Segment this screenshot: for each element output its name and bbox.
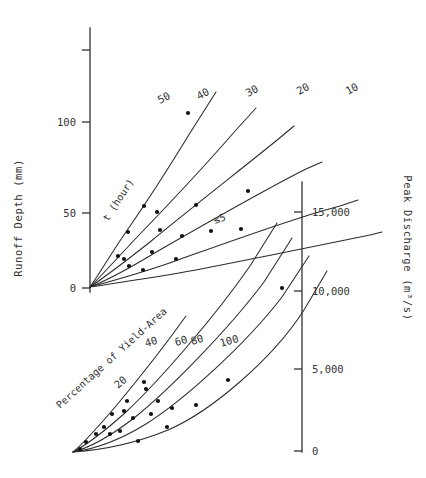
curve-label-lower-60: 60 bbox=[173, 333, 188, 348]
left-axis-title: Runoff Depth (mm) bbox=[12, 159, 24, 277]
lower-family-annotation: Percentage of Yield-Area bbox=[54, 306, 169, 411]
left-axis-tick-label-50: 50 bbox=[63, 207, 76, 219]
curve-label-lower-100: 100 bbox=[218, 332, 240, 349]
data-point bbox=[239, 227, 243, 231]
data-point bbox=[122, 257, 126, 261]
data-point bbox=[194, 403, 198, 407]
upper-family-annotation: t (hour) bbox=[100, 177, 135, 223]
lower-curve-family: 20 40 60 80 100 Percentage of Yield-Area bbox=[54, 223, 327, 452]
runoff-peak-discharge-figure: 100 50 0 Runoff Depth (mm) 15,000 10,000… bbox=[0, 0, 426, 478]
curve-label-lower-80: 80 bbox=[189, 332, 204, 347]
data-point bbox=[149, 412, 153, 416]
data-point bbox=[142, 204, 146, 208]
data-point bbox=[155, 210, 159, 214]
curve-label-upper-30: 30 bbox=[243, 82, 260, 99]
curve-label-upper-40: 40 bbox=[194, 85, 211, 102]
curve-label-lower-40: 40 bbox=[143, 334, 158, 349]
data-point bbox=[102, 425, 106, 429]
right-axis: 15,000 10,000 5,000 0 Peak Discharge (m³… bbox=[294, 175, 414, 457]
right-axis-tick-label-0: 0 bbox=[312, 445, 318, 457]
data-point bbox=[246, 189, 250, 193]
data-point bbox=[127, 264, 131, 268]
data-point bbox=[126, 230, 130, 234]
data-point bbox=[108, 432, 112, 436]
data-point bbox=[118, 429, 122, 433]
data-point bbox=[194, 203, 198, 207]
right-axis-tick-label-5000: 5,000 bbox=[312, 363, 344, 375]
curve-label-upper-20: 20 bbox=[294, 80, 311, 97]
data-point bbox=[165, 425, 169, 429]
curve-label-upper-50: 50 bbox=[155, 89, 172, 106]
left-axis-tick-label-0: 0 bbox=[70, 282, 76, 294]
data-point bbox=[226, 378, 230, 382]
curve-upper-50 bbox=[90, 92, 216, 287]
curve-label-lower-20: 20 bbox=[112, 373, 129, 390]
data-point bbox=[186, 111, 190, 115]
right-axis-title: Peak Discharge (m³/s) bbox=[402, 175, 414, 320]
data-point bbox=[131, 416, 135, 420]
data-point bbox=[158, 228, 162, 232]
curve-upper-30 bbox=[90, 126, 294, 287]
curve-label-upper-10: 10 bbox=[343, 80, 360, 97]
data-point bbox=[280, 286, 284, 290]
data-point bbox=[94, 432, 98, 436]
data-point bbox=[180, 234, 184, 238]
data-point bbox=[125, 399, 129, 403]
data-point bbox=[110, 412, 114, 416]
left-axis-tick-label-100: 100 bbox=[57, 116, 76, 128]
data-point bbox=[78, 447, 82, 451]
data-point bbox=[144, 387, 148, 391]
upper-curve-family: 50 40 30 20 10 t (hour) ≤5 bbox=[90, 80, 382, 287]
left-axis: 100 50 0 Runoff Depth (mm) bbox=[12, 28, 90, 294]
data-point bbox=[122, 409, 126, 413]
data-point bbox=[174, 257, 178, 261]
data-point bbox=[116, 254, 120, 258]
data-point bbox=[142, 380, 146, 384]
data-point bbox=[170, 406, 174, 410]
data-point bbox=[150, 250, 154, 254]
data-point bbox=[141, 268, 145, 272]
data-point bbox=[209, 229, 213, 233]
data-point bbox=[84, 440, 88, 444]
data-point bbox=[136, 439, 140, 443]
chart-canvas: 100 50 0 Runoff Depth (mm) 15,000 10,000… bbox=[0, 0, 426, 478]
data-point bbox=[156, 399, 160, 403]
